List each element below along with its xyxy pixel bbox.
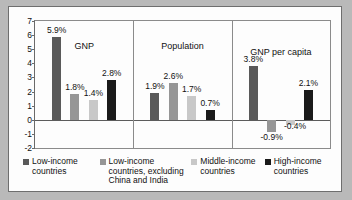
bar (267, 120, 276, 133)
legend-item[interactable]: Low-incomecountries, excludingChina and … (100, 157, 192, 189)
chart-figure: 76543210-1-2 GNP5.9%1.8%1.4%2.8%Populati… (8, 6, 342, 192)
bar-value-label: 1.9% (145, 82, 164, 91)
bar-value-label: 1.4% (84, 89, 103, 98)
legend-label-line: countries (274, 167, 322, 177)
chart-legend: Low-incomecountriesLow-incomecountries, … (23, 157, 329, 189)
bar (206, 110, 215, 120)
y-axis-tick-label: -2 (24, 144, 32, 153)
bar (89, 100, 98, 120)
bar (169, 83, 178, 120)
legend-label: High-incomecountries (274, 157, 322, 176)
bar-value-label: 2.1% (299, 79, 318, 88)
y-axis-tick-label: -1 (24, 130, 32, 139)
panel-title: Population (133, 41, 231, 51)
legend-label-line: China and India (109, 176, 184, 186)
legend-item[interactable]: High-incomecountries (265, 157, 329, 189)
bar-value-label: 1.7% (182, 85, 201, 94)
legend-item[interactable]: Middle-incomecountries (191, 157, 264, 189)
bar (304, 90, 313, 120)
bar-value-label: 5.9% (47, 26, 66, 35)
legend-label: Middle-incomecountries (200, 157, 255, 176)
legend-label-line: countries (32, 167, 78, 177)
bar (70, 94, 79, 119)
legend-swatch-icon (265, 159, 271, 165)
bar (187, 96, 196, 120)
bar-value-label: -0.9% (261, 133, 283, 142)
legend-item[interactable]: Low-incomecountries (23, 157, 100, 189)
chart-panel-population: Population1.9%2.6%1.7%0.7% (133, 21, 231, 148)
y-axis-tick-mark (32, 148, 35, 149)
bar-value-label: 2.8% (102, 69, 121, 78)
legend-swatch-icon (100, 159, 106, 165)
bar (107, 80, 116, 120)
chart-panel-gnp: GNP5.9%1.8%1.4%2.8% (35, 21, 133, 148)
bar-value-label: -0.4% (284, 122, 306, 131)
bar-value-label: 2.6% (164, 72, 183, 81)
legend-label: Low-incomecountries, excludingChina and … (109, 157, 184, 186)
bar-value-label: 0.7% (200, 99, 219, 108)
panel-title: GNP (35, 41, 133, 51)
chart-panel-gnp-per-capita: GNP per capita3.8%-0.9%-0.4%2.1% (232, 21, 330, 148)
legend-swatch-icon (23, 159, 29, 165)
legend-label: Low-incomecountries (32, 157, 78, 176)
bar-value-label: 1.8% (65, 83, 84, 92)
plot-area: 76543210-1-2 GNP5.9%1.8%1.4%2.8%Populati… (34, 20, 331, 149)
bar-value-label: 3.8% (244, 55, 263, 64)
bar (249, 66, 258, 120)
bar (52, 37, 61, 120)
bar (150, 93, 159, 120)
legend-swatch-icon (191, 159, 197, 165)
legend-label-line: countries (200, 167, 255, 177)
